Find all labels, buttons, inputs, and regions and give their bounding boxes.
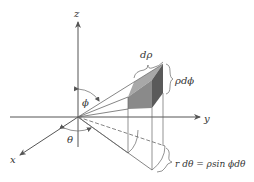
r-d-theta-label: r dθ = ρsin ϕdθ bbox=[175, 159, 246, 169]
ray-mid bbox=[78, 109, 128, 117]
spherical-coordinates-diagram: z y x ϕ θ dρ ρdϕ r dθ = ρsin ϕdθ bbox=[0, 0, 254, 182]
floor-arc-2 bbox=[152, 146, 165, 170]
theta-label: θ bbox=[67, 134, 73, 145]
floor-ray-2 bbox=[78, 117, 152, 170]
phi-label: ϕ bbox=[82, 97, 89, 108]
d-rho-label: dρ bbox=[140, 49, 152, 60]
rho-d-phi-label: ρdϕ bbox=[174, 75, 194, 86]
x-axis-label: x bbox=[10, 154, 16, 165]
z-axis-label: z bbox=[73, 8, 80, 19]
rho-d-phi-brace bbox=[166, 64, 173, 94]
floor-arc-1 bbox=[128, 130, 138, 153]
y-axis-label: y bbox=[203, 113, 210, 124]
